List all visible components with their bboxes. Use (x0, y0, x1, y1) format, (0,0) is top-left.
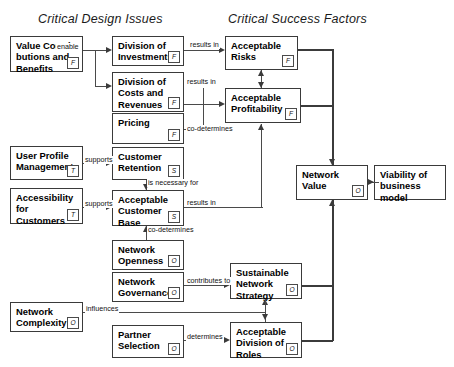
node-line: Viability of (380, 169, 441, 180)
node-line: Partner (118, 329, 179, 340)
header-critical-design-issues: Critical Design Issues (38, 12, 163, 26)
type-marker-f: F (168, 129, 180, 141)
type-marker-o: O (168, 287, 180, 299)
node-division-costs-revenues[interactable]: Division of Costs and Revenues F (112, 72, 184, 112)
node-line: Network (16, 306, 78, 317)
arrowhead-determines (224, 337, 230, 343)
node-line: Division of (118, 76, 179, 87)
trunk-top-to-network-value (332, 49, 334, 165)
edge-label-supports-customer-base: supports (84, 200, 114, 208)
edge-label-determines: determines (186, 333, 224, 341)
node-line: Network (118, 276, 179, 287)
arrowhead-enable-costs (106, 83, 112, 89)
edge-enable-riser (95, 50, 96, 86)
node-line: User Profile (16, 150, 78, 161)
node-acceptable-division-roles[interactable]: Acceptable Division of Roles O (230, 322, 302, 358)
node-viability-business-model[interactable]: Viability of business model (374, 165, 446, 200)
node-partner-selection[interactable]: Partner Selection O (112, 325, 184, 358)
edge-profitability-to-trunk (301, 105, 333, 107)
node-line: business model (380, 180, 441, 203)
arrowhead-roles-to-strategy-down (262, 314, 268, 320)
node-user-profile-management[interactable]: User Profile Management T (10, 146, 83, 180)
node-line: Sustainable (236, 267, 297, 278)
edge-results-in-profit2-line (184, 207, 263, 208)
node-accessibility-customers[interactable]: Accessibility for Customers T (10, 188, 83, 224)
edge-label-co-determines-customer-base: co-determines (147, 226, 195, 234)
node-network-value[interactable]: Network Value O (296, 165, 368, 200)
node-division-investments[interactable]: Division of Investments F (112, 36, 184, 66)
type-marker-f: F (282, 55, 294, 67)
node-acceptable-profitability[interactable]: Acceptable Profitability F (225, 88, 301, 123)
arrowhead-up-risks (258, 70, 264, 76)
arrowhead-value-to-viability (368, 179, 374, 185)
node-line: Network (302, 169, 363, 180)
header-critical-success-factors: Critical Success Factors (228, 12, 367, 26)
type-marker-f: F (67, 57, 79, 69)
edge-results-in-profit-riser (203, 88, 204, 104)
type-marker-o: O (168, 343, 180, 355)
node-pricing[interactable]: Pricing F (112, 113, 184, 144)
edge-label-results-in-profit2: results in (186, 199, 217, 207)
edge-label-contributes-to: contributes to (186, 277, 231, 285)
edge-risks-to-trunk (298, 49, 333, 51)
arrowhead-down-profitability (258, 82, 264, 88)
node-network-complexity[interactable]: Network Complexity O (10, 302, 83, 332)
type-marker-o: O (286, 343, 298, 355)
edge-label-influences: influences (85, 305, 119, 313)
type-marker-t: T (67, 165, 79, 177)
edge-contributes-to (184, 285, 225, 286)
type-marker-t: T (67, 209, 79, 221)
type-marker-o: O (286, 284, 298, 296)
arrowhead-enable-investments (106, 47, 112, 53)
edge-results-in-risks (184, 50, 220, 51)
node-line: Acceptable (118, 194, 179, 205)
node-network-governance[interactable]: Network Governance O (112, 272, 184, 302)
edge-results-in-profit-line (184, 104, 220, 105)
node-line: Acceptable (236, 326, 297, 337)
trunk-bottom-to-network-value (332, 200, 334, 341)
arrowhead-trunk-into-network-value (329, 159, 335, 165)
arrowhead-results-in-profit2 (258, 124, 264, 130)
type-marker-o: O (168, 255, 180, 267)
edge-label-supports-retention: supports (84, 156, 114, 164)
node-customer-retention[interactable]: Customer Retention S (112, 147, 184, 180)
node-line: Acceptable (231, 92, 296, 103)
type-marker-f: F (168, 51, 180, 63)
node-line: Network (118, 244, 179, 255)
edge-results-in-profit2-riser (261, 124, 262, 208)
edge-label-results-in-profit: results in (186, 78, 217, 86)
node-sustainable-network-strategy[interactable]: Sustainable Network Strategy O (230, 263, 302, 299)
type-marker-o: O (352, 185, 364, 197)
arrowhead-results-in-risks (219, 47, 225, 53)
arrowhead-results-in-profit (219, 101, 225, 107)
edge-strategy-to-trunk (302, 285, 333, 287)
edge-label-results-in-risks: results in (189, 41, 220, 49)
type-marker-f: F (168, 97, 180, 109)
arrowhead-trunk-up-into-network-value (329, 200, 335, 206)
type-marker-s: S (168, 165, 180, 177)
node-line: Acceptable (231, 40, 293, 51)
diagram-canvas: Critical Design Issues Critical Success … (0, 0, 454, 367)
edge-label-enable: enable (56, 43, 80, 51)
type-marker-o: O (67, 317, 79, 329)
type-marker-s: S (168, 211, 180, 223)
node-line: Accessibility (16, 192, 78, 203)
node-network-openness[interactable]: Network Openness O (112, 240, 184, 270)
edge-roles-to-trunk (302, 340, 333, 342)
node-acceptable-customer-base[interactable]: Acceptable Customer Base S (112, 190, 184, 226)
edge-label-co-determines-profit: co-determines (186, 125, 234, 133)
type-marker-f: F (285, 108, 297, 120)
node-acceptable-risks[interactable]: Acceptable Risks F (225, 36, 298, 70)
node-line: Pricing (118, 117, 179, 128)
node-line: Customer (118, 151, 179, 162)
edge-label-is-necessary-for: is necessary for (147, 179, 199, 187)
node-line: Division of (118, 40, 179, 51)
